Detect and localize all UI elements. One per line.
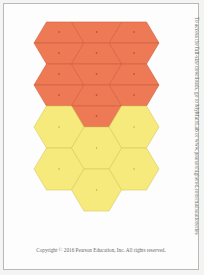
copyright-notice: Copyright © 2016 Pearson Education, Inc.… [3, 247, 199, 253]
side-note-text: To access the full-size downloads, go to… [194, 17, 200, 235]
page-text-layer: To access the full-size downloads, go to… [3, 3, 199, 270]
side-note: To access the full-size downloads, go to… [192, 17, 200, 257]
